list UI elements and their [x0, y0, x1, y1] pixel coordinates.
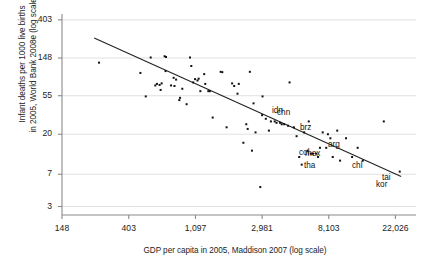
- y-tick-label-2: 20: [22, 128, 52, 138]
- data-point: [170, 84, 172, 86]
- data-point: [178, 99, 180, 101]
- data-point: [190, 65, 192, 67]
- x-tick-label-5: 22,026: [373, 223, 417, 233]
- data-point: [139, 72, 141, 74]
- data-point: [231, 82, 233, 84]
- data-point: [194, 78, 196, 80]
- x-tick-marks: [62, 215, 395, 219]
- data-point: [156, 83, 158, 85]
- data-point: [262, 95, 264, 97]
- data-point: [175, 79, 177, 81]
- point-label-brz: brz: [300, 123, 311, 132]
- data-point: [226, 126, 228, 128]
- x-tick-label-4: 8,103: [307, 223, 351, 233]
- point-label-arg: arg: [328, 140, 340, 149]
- axes-group: [62, 14, 416, 215]
- x-tick-label-1: 403: [107, 223, 151, 233]
- data-point: [209, 90, 211, 92]
- data-point: [265, 118, 267, 120]
- data-point: [329, 137, 331, 139]
- y-tick-label-1: 7: [22, 168, 52, 178]
- data-point: [289, 81, 291, 83]
- data-point: [160, 89, 162, 91]
- y-tick-label-0: 3: [22, 201, 52, 211]
- data-point: [270, 120, 272, 122]
- y-tick-label-4: 148: [22, 52, 52, 62]
- data-point: [233, 85, 235, 87]
- data-point: [296, 135, 298, 137]
- data-point: [283, 123, 285, 125]
- data-point: [255, 131, 257, 133]
- data-point: [322, 131, 324, 133]
- data-point: [399, 171, 401, 173]
- data-point: [268, 130, 270, 132]
- data-point: [165, 56, 167, 58]
- data-point: [336, 130, 338, 132]
- data-point: [161, 82, 163, 84]
- data-point: [325, 147, 327, 149]
- chart-figure: Infant deaths per 1000 live births in 20…: [0, 0, 424, 267]
- point-label-chl: chl: [352, 161, 362, 170]
- regression-line: [94, 38, 401, 176]
- data-point: [253, 102, 255, 104]
- x-tick-label-3: 2,981: [240, 223, 284, 233]
- data-point: [98, 62, 100, 64]
- data-point: [276, 122, 278, 124]
- data-point: [150, 57, 152, 59]
- data-point: [242, 142, 244, 144]
- y-tick-marks: [58, 20, 62, 207]
- data-point: [274, 120, 276, 122]
- data-point: [198, 78, 200, 80]
- point-label-chn: chn: [277, 108, 290, 117]
- point-label-tha: tha: [304, 161, 315, 170]
- x-axis-title: GDP per capita in 2005, Maddison 2007 (l…: [62, 246, 408, 257]
- data-point: [145, 95, 147, 97]
- x-tick-label-0: 148: [40, 223, 84, 233]
- point-label-kor: kor: [376, 180, 387, 189]
- data-point: [351, 156, 353, 158]
- data-point: [327, 133, 329, 135]
- x-tick-label-2: 1,097: [173, 223, 217, 233]
- data-point: [345, 137, 347, 139]
- data-point: [159, 84, 161, 86]
- data-point: [251, 150, 253, 152]
- data-point: [357, 147, 359, 149]
- data-point: [236, 93, 238, 95]
- data-point: [192, 81, 194, 83]
- fit-line-group: [94, 38, 401, 176]
- data-point: [293, 126, 295, 128]
- data-point: [245, 123, 247, 125]
- data-point: [259, 186, 261, 188]
- data-point: [181, 88, 183, 90]
- data-point: [301, 164, 303, 166]
- data-point: [196, 80, 198, 82]
- data-point: [238, 83, 240, 85]
- data-point: [249, 71, 251, 73]
- data-point: [281, 123, 283, 125]
- data-point: [165, 70, 167, 72]
- data-point: [383, 120, 385, 122]
- data-point: [261, 114, 263, 116]
- data-point: [179, 97, 181, 99]
- data-point: [287, 125, 289, 127]
- data-point: [173, 85, 175, 87]
- data-point: [247, 128, 249, 130]
- data-point: [204, 83, 206, 85]
- data-point: [203, 73, 205, 75]
- y-tick-label-5: 403: [22, 14, 52, 24]
- data-point: [332, 156, 334, 158]
- data-point: [186, 103, 188, 105]
- data-point: [221, 71, 223, 73]
- data-point: [173, 77, 175, 79]
- y-tick-label-3: 55: [22, 90, 52, 100]
- data-point: [339, 160, 341, 162]
- data-point: [189, 57, 191, 59]
- data-point: [212, 117, 214, 119]
- point-label-mex: mex: [305, 149, 320, 158]
- data-point: [199, 90, 201, 92]
